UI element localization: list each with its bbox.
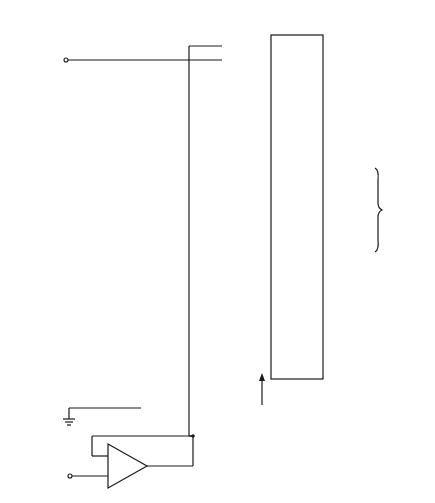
flash-adc-diagram [0,0,435,503]
analog-input-terminal [68,474,72,478]
priority-encoder-box [271,35,323,379]
reference-terminal [64,58,68,62]
buffer-amplifier [68,434,195,488]
binary-outputs-brace [375,168,382,252]
ground-symbol [63,408,141,425]
